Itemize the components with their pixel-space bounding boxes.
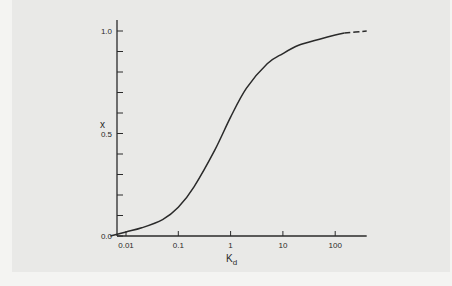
line-chart: 0.00.51.0 0.010.1110100 x Kd (0, 0, 452, 286)
data-line (110, 33, 344, 236)
y-axis: 0.00.51.0 (101, 20, 123, 241)
y-tick-label: 1.0 (101, 27, 113, 36)
dashed-extrapolation-line (344, 31, 366, 33)
x-tick-label: 100 (329, 241, 343, 250)
plot-curves (110, 31, 366, 236)
y-tick-label: 0.5 (101, 130, 113, 139)
x-tick-label: 0.1 (173, 241, 185, 250)
y-axis-label: x (100, 119, 105, 130)
x-tick-label: 0.01 (118, 241, 134, 250)
figure-caption (20, 276, 440, 286)
x-axis-label: Kd (226, 253, 237, 267)
x-axis: 0.010.1110100 (117, 231, 367, 250)
x-tick-label: 10 (278, 241, 287, 250)
x-tick-label: 1 (228, 241, 233, 250)
